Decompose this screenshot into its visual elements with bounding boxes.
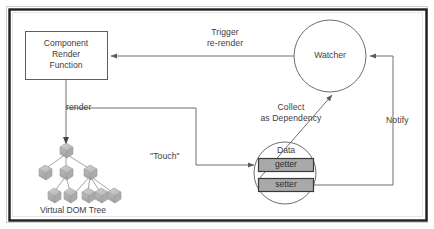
watcher-label: Watcher bbox=[300, 50, 360, 61]
render-label: render bbox=[66, 102, 116, 113]
setter-chip-label: setter bbox=[258, 179, 314, 190]
component-render-function-label: Component Render Function bbox=[26, 38, 106, 71]
touch-label: "Touch" bbox=[150, 151, 198, 162]
getter-chip-label: getter bbox=[258, 159, 314, 170]
virtual-dom-tree-label: Virtual DOM Tree bbox=[23, 205, 123, 216]
data-label: Data bbox=[261, 145, 311, 156]
notify-label: Notify bbox=[386, 115, 426, 126]
trigger-rerender-label: Trigger re-render bbox=[178, 27, 272, 48]
collect-as-dependency-label: Collect as Dependency bbox=[245, 102, 337, 123]
diagram-canvas: Component Render Function Watcher Data g… bbox=[0, 0, 434, 229]
